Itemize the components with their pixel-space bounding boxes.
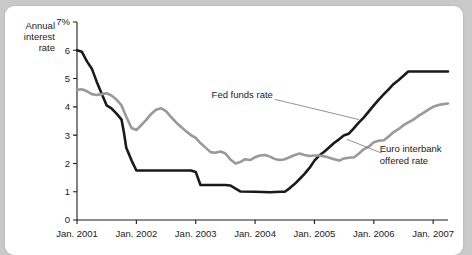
x-tick-label: Jan. 2006 — [353, 228, 395, 239]
y-axis-title-line: interest — [24, 31, 56, 42]
y-tick-label: 7% — [56, 16, 70, 27]
x-tick-label: Jan. 2003 — [175, 228, 217, 239]
x-tick-label: Jan. 2005 — [294, 228, 336, 239]
chart-card: 01234567%Jan. 2001Jan. 2002Jan. 2003Jan.… — [5, 6, 463, 255]
y-tick-label: 0 — [65, 214, 70, 225]
screenshot-root: 01234567%Jan. 2001Jan. 2002Jan. 2003Jan.… — [0, 0, 472, 255]
x-tick-label: Jan. 2007 — [412, 228, 454, 239]
euro-interbank-offered-rate-label-line1: Euro interbank — [380, 143, 442, 154]
y-tick-label: 5 — [65, 73, 70, 84]
y-tick-label: 4 — [65, 101, 70, 112]
y-axis-title-line: Annual — [25, 20, 55, 31]
fed-funds-rate-label: Fed funds rate — [212, 89, 273, 100]
y-tick-label: 1 — [65, 186, 70, 197]
euro-interbank-offered-rate-label-line2: offered rate — [380, 155, 428, 166]
y-tick-label: 3 — [65, 130, 70, 141]
y-tick-label: 2 — [65, 158, 70, 169]
series-line-fed-funds-rate — [77, 50, 448, 192]
x-tick-label: Jan. 2001 — [56, 228, 98, 239]
x-tick-label: Jan. 2002 — [115, 228, 157, 239]
interest-rate-line-chart: 01234567%Jan. 2001Jan. 2002Jan. 2003Jan.… — [5, 6, 463, 255]
y-axis-title-line: rate — [39, 42, 55, 53]
y-tick-label: 6 — [65, 45, 70, 56]
x-tick-label: Jan. 2004 — [234, 228, 276, 239]
fed-funds-rate-label-leader-line — [275, 99, 359, 119]
